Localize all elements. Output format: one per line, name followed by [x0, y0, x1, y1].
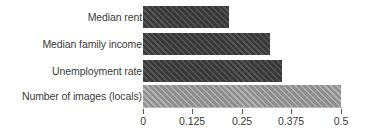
x-axis-tick-1 — [192, 109, 193, 114]
bar-row-median-family-income: Median family income — [0, 33, 370, 55]
x-axis-tick-label-4: 0.5 — [334, 115, 348, 127]
category-label-unemployment-rate: Unemployment rate — [52, 60, 142, 82]
x-axis-tick-3 — [291, 109, 292, 114]
x-axis: 0 0.125 0.25 0.375 0.5 — [0, 107, 370, 132]
x-axis-tick-0 — [143, 109, 144, 114]
x-axis-tick-2 — [242, 109, 243, 114]
category-label-number-of-images-locals: Number of images (locals) — [22, 85, 142, 107]
bar-row-number-of-images-locals: Number of images (locals) — [0, 85, 370, 107]
x-axis-tick-4 — [341, 109, 342, 114]
bar-number-of-images-locals — [143, 85, 341, 107]
horizontal-bar-chart: Median rent Median family income Unemplo… — [0, 0, 370, 132]
bar-median-family-income — [143, 33, 270, 55]
bar-median-rent — [143, 6, 229, 28]
bar-row-unemployment-rate: Unemployment rate — [0, 60, 370, 82]
category-label-median-family-income: Median family income — [42, 33, 142, 55]
bar-row-median-rent: Median rent — [0, 6, 370, 28]
x-axis-tick-label-0: 0 — [140, 115, 146, 127]
bar-unemployment-rate — [143, 60, 282, 82]
x-axis-tick-label-2: 0.25 — [232, 115, 252, 127]
x-axis-line — [143, 107, 342, 108]
x-axis-tick-label-3: 0.375 — [278, 115, 304, 127]
bar-rows: Median rent Median family income Unemplo… — [0, 0, 370, 110]
x-axis-tick-label-1: 0.125 — [179, 115, 205, 127]
category-label-median-rent: Median rent — [88, 6, 142, 28]
